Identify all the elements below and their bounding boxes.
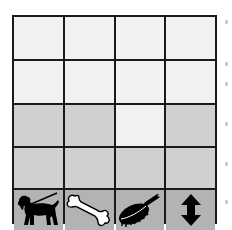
board-cell-r1-c0[interactable] (14, 61, 63, 103)
edge-mark (225, 162, 228, 166)
board-cell-r1-c2[interactable] (116, 61, 165, 103)
edge-marks (222, 0, 232, 230)
board-cell-r0-c0[interactable] (14, 17, 63, 59)
board-cell-r1-c1[interactable] (65, 61, 114, 103)
board-cell-r2-c0[interactable] (14, 105, 63, 146)
edge-mark (225, 122, 228, 126)
board-cell-r2-c2[interactable] (116, 105, 165, 146)
feed-bone-button[interactable] (65, 190, 114, 230)
game-board (12, 15, 217, 224)
board-cell-r1-c3[interactable] (166, 61, 215, 103)
groom-brush-button[interactable] (116, 190, 165, 230)
edge-mark (225, 200, 228, 204)
edge-mark (225, 62, 228, 66)
brush-icon (116, 192, 164, 228)
board-cell-r3-c0[interactable] (14, 148, 63, 188)
edge-mark (225, 20, 228, 24)
walk-dog-button[interactable] (14, 190, 63, 230)
board-cell-r0-c2[interactable] (116, 17, 165, 59)
up-down-arrow-icon (180, 193, 202, 227)
board-cell-r2-c1[interactable] (65, 105, 114, 146)
edge-mark (225, 82, 228, 86)
board-cell-r3-c3[interactable] (166, 148, 215, 188)
move-button[interactable] (166, 190, 215, 230)
board-cell-r2-c3[interactable] (166, 105, 215, 146)
board-cell-r0-c3[interactable] (166, 17, 215, 59)
dog-on-leash-icon (15, 191, 61, 229)
bone-icon (66, 192, 112, 228)
board-cell-r0-c1[interactable] (65, 17, 114, 59)
board-cell-r3-c2[interactable] (116, 148, 165, 188)
board-cell-r3-c1[interactable] (65, 148, 114, 188)
